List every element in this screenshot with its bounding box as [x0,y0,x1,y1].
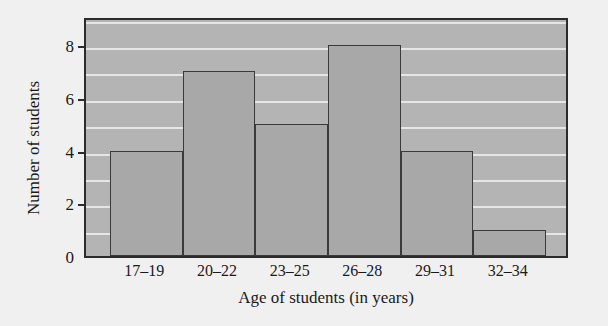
y-tick-label: 2 [66,195,75,215]
x-tick-label: 29–31 [415,262,455,280]
x-axis-title: Age of students (in years) [84,288,568,308]
plot-area [84,18,568,258]
gridline [86,48,566,50]
histogram-bar [328,45,401,256]
x-tick-label: 26–28 [342,262,382,280]
x-tick-label: 20–22 [197,262,237,280]
y-axis-title: Number of students [24,28,44,268]
histogram-figure: 02468 Number of students Age of students… [0,0,608,326]
histogram-bar [255,124,328,256]
y-tick-label: 6 [66,90,75,110]
histogram-bar [183,71,256,256]
y-tick-label: 4 [66,143,75,163]
y-tick-label: 0 [66,248,75,268]
y-tick-label: 8 [66,37,75,57]
histogram-bar [473,230,546,256]
gridline [86,74,566,76]
histogram-bar [401,151,474,256]
gridline [86,101,566,103]
gridline [86,22,566,24]
x-tick-label: 17–19 [124,262,164,280]
histogram-bar [110,151,183,256]
x-tick-label: 32–34 [488,262,528,280]
x-tick-label: 23–25 [270,262,310,280]
